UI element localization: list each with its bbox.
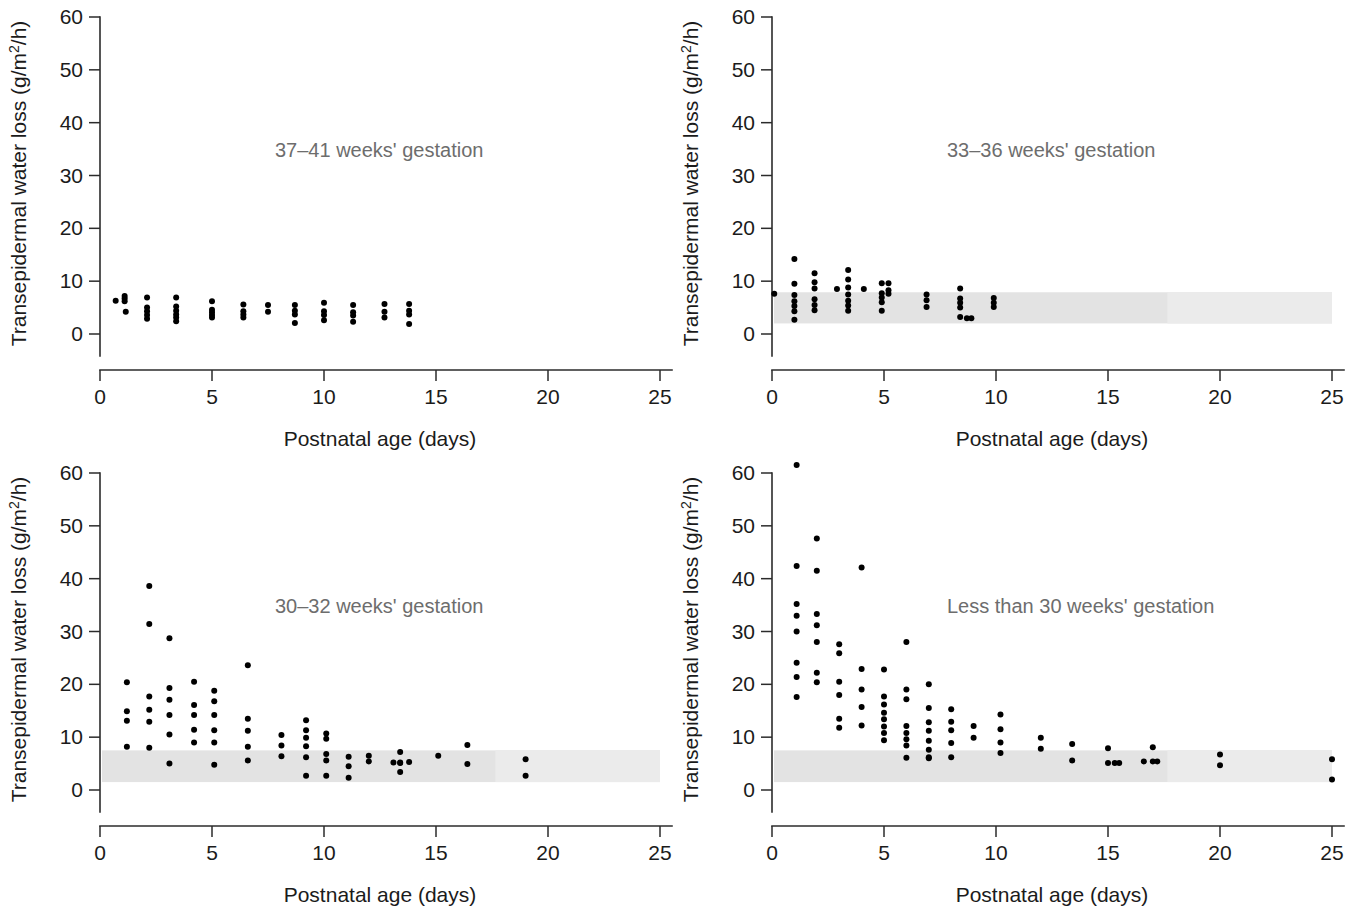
data-point [794,660,800,666]
data-point [245,662,251,668]
data-point [321,312,327,318]
data-point [278,732,284,738]
data-point [968,315,974,321]
data-point [991,304,997,310]
x-tick-label: 25 [648,385,671,408]
data-point [406,301,412,307]
x-tick-label: 0 [766,841,778,864]
data-point [366,753,372,759]
data-point [814,622,820,628]
data-point [397,760,403,766]
data-point [146,583,152,589]
y-tick-label: 10 [732,269,755,292]
x-tick-label: 20 [536,841,559,864]
data-point [245,744,251,750]
y-tick-label: 40 [732,111,755,134]
data-point [191,727,197,733]
scatter-panel-30-32-weeks: 0102030405060051015202530–32 weeks' gest… [0,456,675,911]
x-tick-label: 20 [536,385,559,408]
data-point [278,753,284,759]
x-tick-label: 0 [766,385,778,408]
data-point [836,692,842,698]
x-tick-label: 5 [206,385,218,408]
data-point [211,688,217,694]
plot-area-panel-30-32: 0102030405060051015202530–32 weeks' gest… [0,456,675,911]
data-point [146,719,152,725]
data-point [926,738,932,744]
y-axis-title: Transepidermal water loss (g/m2/h) [6,477,30,803]
y-tick-label: 30 [732,620,755,643]
data-point [971,723,977,729]
y-tick-label: 30 [60,620,83,643]
y-tick-label: 0 [743,778,755,801]
data-point [948,719,954,725]
data-point [926,747,932,753]
data-point [166,732,172,738]
reference-range-band-tail [495,750,660,782]
data-point [166,761,172,767]
y-tick-label: 10 [60,269,83,292]
data-point [124,744,130,750]
y-tick-label: 20 [60,672,83,695]
reference-range-band-tail [1167,750,1332,782]
data-point [303,717,309,723]
data-point [812,307,818,313]
y-tick-label: 0 [71,322,83,345]
data-point [464,761,470,767]
x-tick-label: 25 [1320,841,1343,864]
data-point [397,749,403,755]
y-tick-label: 40 [732,567,755,590]
scatter-panel-37-41-weeks: 0102030405060051015202537–41 weeks' gest… [0,0,675,455]
data-point [845,277,851,283]
x-tick-label: 0 [94,841,106,864]
data-point [381,309,387,315]
x-tick-label: 15 [1096,385,1119,408]
plot-area-panel-lt30: 01020304050600510152025Less than 30 week… [672,456,1347,911]
data-point [1069,741,1075,747]
data-point [1105,760,1111,766]
y-tick-label: 40 [60,567,83,590]
data-point [794,601,800,607]
data-point [794,563,800,569]
data-point [812,286,818,292]
data-point [173,295,179,301]
panel-title: 37–41 weeks' gestation [275,139,483,161]
data-point [881,737,887,743]
data-point [997,726,1003,732]
svg-text:Transepidermal water loss (g/m: Transepidermal water loss (g/m2/h) [678,477,702,803]
data-point [523,756,529,762]
x-tick-label: 5 [206,841,218,864]
data-point [303,754,309,760]
data-point [859,704,865,710]
y-tick-label: 60 [732,5,755,28]
data-point [794,694,800,700]
data-point [303,735,309,741]
data-point [292,302,298,308]
data-point [881,710,887,716]
data-point [814,536,820,542]
data-point [406,321,412,327]
data-point [845,308,851,314]
x-axis-title: Postnatal age (days) [956,883,1149,906]
data-point [836,641,842,647]
data-point [836,679,842,685]
svg-text:Transepidermal water loss (g/m: Transepidermal water loss (g/m2/h) [6,477,30,803]
data-point [523,773,529,779]
data-point [836,725,842,731]
data-point [390,760,396,766]
data-point [209,298,215,304]
data-point [323,736,329,742]
data-point [881,730,887,736]
x-tick-label: 25 [648,841,671,864]
y-tick-label: 30 [732,164,755,187]
data-point [406,311,412,317]
data-point [957,286,963,292]
x-tick-label: 10 [312,385,335,408]
data-point [240,301,246,307]
svg-text:Transepidermal water loss (g/m: Transepidermal water loss (g/m2/h) [6,21,30,347]
data-point [211,739,217,745]
data-point [845,302,851,308]
data-point [885,291,891,297]
data-point [903,755,909,761]
data-point [859,723,865,729]
